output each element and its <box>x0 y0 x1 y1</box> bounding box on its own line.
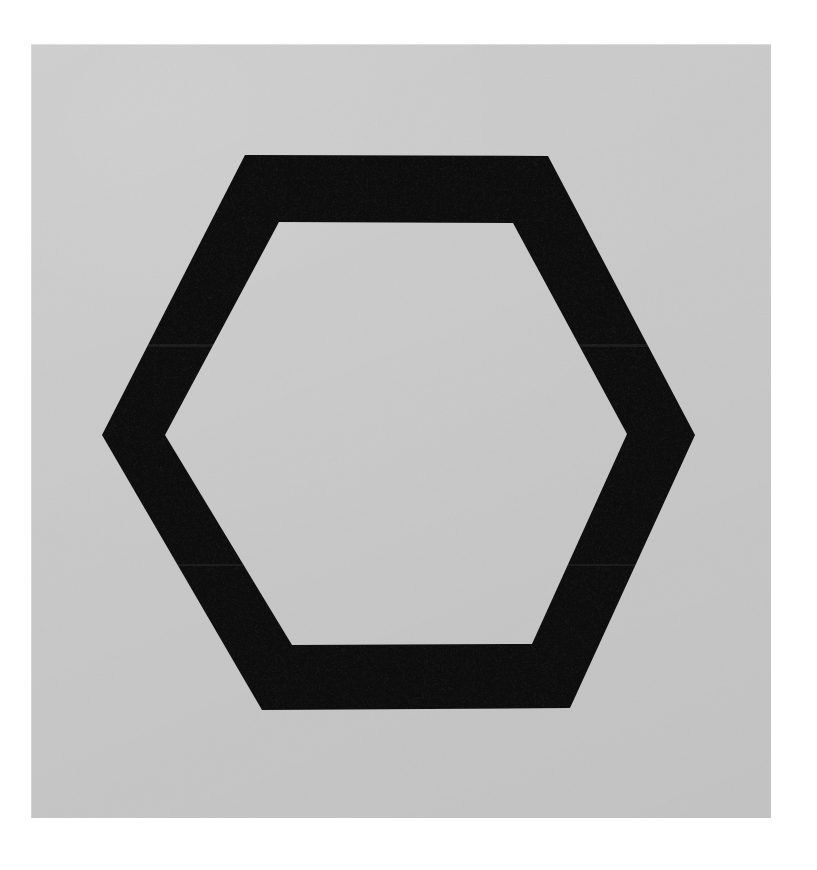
image-canvas <box>0 0 817 870</box>
photographed-paper-card <box>31 44 771 818</box>
hexagon-shape-layer <box>31 44 771 818</box>
